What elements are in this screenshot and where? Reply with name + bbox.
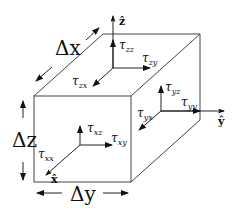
tau-zx-arrow-icon xyxy=(93,68,113,86)
y-axis-label: ŷ xyxy=(217,115,225,128)
right-face-stresses: ŷ τyz τyy τyx xyxy=(137,80,225,130)
tau-xx-label: τxx xyxy=(38,147,54,163)
dimension-dx: Δx xyxy=(36,28,99,81)
edge-bottom-right xyxy=(131,120,200,182)
tau-yz-label: τyz xyxy=(165,80,181,96)
dz-label: Δz xyxy=(12,128,37,152)
front-face-stresses: x̂ τxz τxy τxx xyxy=(38,121,127,186)
tau-yy-label: τyy xyxy=(181,95,197,111)
z-axis-label: ẑ xyxy=(119,15,125,28)
tau-zx-label: τzx xyxy=(72,74,88,90)
tau-xx-shaft xyxy=(64,145,80,159)
dx-label: Δx xyxy=(55,36,81,60)
tau-zz-label: τzz xyxy=(119,38,135,54)
stress-cube-diagram: Δx Δz Δy ẑ τzz τzy τzx ŷ τyz τyy τyx xyxy=(0,0,236,210)
tau-yx-label: τyx xyxy=(137,106,153,122)
dx-arrow-icon xyxy=(86,28,99,40)
dx-arrow-icon xyxy=(36,67,52,81)
tau-zy-label: τzy xyxy=(142,51,158,67)
tau-xz-label: τxz xyxy=(87,121,103,137)
dimension-dz: Δz xyxy=(12,101,37,180)
tau-xy-label: τxy xyxy=(111,131,127,147)
dy-label: Δy xyxy=(70,182,96,206)
top-face-stresses: ẑ τzz τzy τzx xyxy=(72,15,158,90)
x-axis-label: x̂ xyxy=(51,173,58,186)
